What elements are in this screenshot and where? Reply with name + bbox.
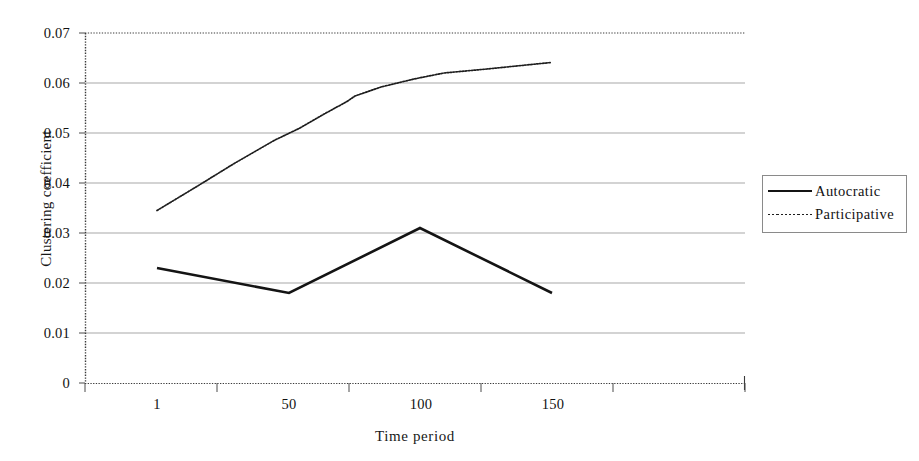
- y-tick-label-0.01: 0.01: [16, 325, 70, 342]
- y-tick-label-0.05: 0.05: [16, 125, 70, 142]
- x-axis-title: Time period: [285, 428, 545, 445]
- y-tick-marks: [79, 33, 85, 383]
- y-tick-label-0.06: 0.06: [16, 75, 70, 92]
- legend-label-autocratic: Autocratic: [815, 183, 881, 200]
- series-line-participative: [157, 63, 551, 211]
- y-tick-label-0.04: 0.04: [16, 175, 70, 192]
- chart-figure: Clustering coefficient 0.07 0.06 0.05 0.…: [0, 0, 919, 461]
- legend-label-participative: Participative: [815, 206, 894, 223]
- y-tick-label-0: 0: [16, 375, 70, 392]
- legend-entry-participative: Participative: [763, 203, 908, 225]
- y-tick-label-0.02: 0.02: [16, 275, 70, 292]
- gridlines: [85, 83, 745, 333]
- x-tick-label-1: 1: [121, 396, 193, 413]
- legend-swatch-solid-line-icon: [768, 185, 812, 197]
- x-tick-label-50: 50: [253, 396, 325, 413]
- legend-entry-autocratic: Autocratic: [763, 180, 908, 202]
- x-tick-label-100: 100: [385, 396, 457, 413]
- x-tick-marks: [85, 383, 745, 392]
- chart-legend: Autocratic Participative: [762, 175, 907, 233]
- legend-swatch-dotted-line-icon: [768, 208, 812, 220]
- x-tick-label-150: 150: [517, 396, 589, 413]
- y-tick-label-0.03: 0.03: [16, 225, 70, 242]
- plot-figure: Clustering coefficient 0.07 0.06 0.05 0.…: [0, 0, 919, 461]
- y-tick-label-0.07: 0.07: [16, 25, 70, 42]
